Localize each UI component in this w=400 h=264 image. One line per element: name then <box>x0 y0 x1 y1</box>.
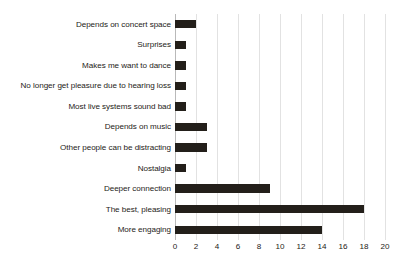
category-label: Other people can be distracting <box>0 143 171 152</box>
bar-row: No longer get pleasure due to hearing lo… <box>0 76 400 97</box>
bar-row: Depends on music <box>0 117 400 138</box>
bar-row: Deeper connection <box>0 178 400 199</box>
bar <box>175 143 207 151</box>
bar-row: Other people can be distracting <box>0 137 400 158</box>
bar-row: Depends on concert space <box>0 14 400 35</box>
clipped-chart-title <box>0 0 400 5</box>
x-axis: 02468101214161820 <box>0 240 400 258</box>
category-label: The best, pleasing <box>0 205 171 214</box>
bar-row: The best, pleasing <box>0 199 400 220</box>
bar <box>175 123 207 131</box>
category-label: Makes me want to dance <box>0 61 171 70</box>
bar-row: Nostalgia <box>0 158 400 179</box>
category-label: More engaging <box>0 225 171 234</box>
bar <box>175 164 186 172</box>
bar-rows-container: Depends on concert spaceSurprisesMakes m… <box>0 14 400 240</box>
bar <box>175 102 186 110</box>
bar-row: More engaging <box>0 219 400 240</box>
category-label: Surprises <box>0 40 171 49</box>
category-label: Deeper connection <box>0 184 171 193</box>
category-label: Depends on concert space <box>0 20 171 29</box>
bar-row: Most live systems sound bad <box>0 96 400 117</box>
bar <box>175 41 186 49</box>
category-label: Most live systems sound bad <box>0 102 171 111</box>
bar <box>175 61 186 69</box>
bar <box>175 205 364 213</box>
x-tick-label: 20 <box>373 242 397 251</box>
category-label: Depends on music <box>0 122 171 131</box>
bar-row: Surprises <box>0 35 400 56</box>
bar-row: Makes me want to dance <box>0 55 400 76</box>
bar <box>175 82 186 90</box>
bar <box>175 226 322 234</box>
bar <box>175 184 270 192</box>
bar <box>175 20 196 28</box>
horizontal-bar-chart: Depends on concert spaceSurprisesMakes m… <box>0 0 400 264</box>
category-label: No longer get pleasure due to hearing lo… <box>0 81 171 90</box>
category-label: Nostalgia <box>0 164 171 173</box>
